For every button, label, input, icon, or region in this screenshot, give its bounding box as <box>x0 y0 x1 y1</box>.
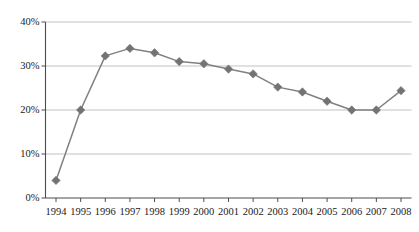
data-point-marker <box>101 52 109 60</box>
data-point-marker <box>323 97 331 105</box>
line-chart: 0%10%20%30%40%19941995199619971998199920… <box>0 0 419 232</box>
x-axis-tick-label: 1995 <box>70 207 91 218</box>
x-axis-tick-label: 1999 <box>169 207 190 218</box>
x-axis-tick-label: 2007 <box>366 207 387 218</box>
x-axis-tick-label: 2008 <box>391 207 412 218</box>
y-axis-tick-label: 0% <box>26 193 40 204</box>
data-point-marker <box>76 106 84 114</box>
x-axis-tick-label: 2006 <box>341 207 362 218</box>
chart-plot-area <box>0 0 419 232</box>
y-axis-tick-label: 20% <box>20 105 39 116</box>
axes <box>42 22 412 202</box>
data-point-marker <box>126 44 134 52</box>
data-point-marker <box>249 70 257 78</box>
y-axis-tick-label: 30% <box>20 61 39 72</box>
data-point-marker <box>274 83 282 91</box>
data-point-marker <box>200 60 208 68</box>
data-point-marker <box>175 57 183 65</box>
x-axis-tick-label: 2001 <box>218 207 239 218</box>
data-point-marker <box>52 176 60 184</box>
data-point-marker <box>348 106 356 114</box>
y-axis-tick-label: 10% <box>20 149 39 160</box>
series-markers <box>52 44 405 184</box>
x-axis-tick-label: 2005 <box>317 207 338 218</box>
x-axis-tick-label: 2002 <box>243 207 264 218</box>
x-axis-tick-label: 2003 <box>267 207 288 218</box>
y-axis-tick-label: 40% <box>20 17 39 28</box>
gridlines <box>46 22 412 154</box>
x-axis-tick-label: 1994 <box>46 207 67 218</box>
data-point-marker <box>150 49 158 57</box>
x-axis-tick-label: 1996 <box>95 207 116 218</box>
x-axis-tick-label: 2004 <box>292 207 313 218</box>
x-axis-tick-label: 2000 <box>193 207 214 218</box>
x-axis-tick-label: 1997 <box>119 207 140 218</box>
x-axis-tick-label: 1998 <box>144 207 165 218</box>
data-point-marker <box>298 88 306 96</box>
